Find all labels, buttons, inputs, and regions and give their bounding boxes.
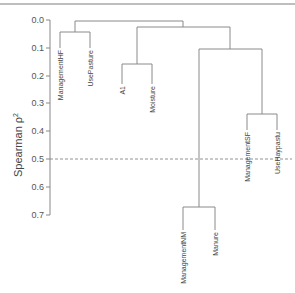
link-managementsf-usehaypastu: [247, 114, 277, 130]
leaf-label: A1: [119, 86, 126, 95]
link-a1-moisture: [122, 64, 152, 84]
y-tick-label: 0.5: [31, 154, 44, 164]
leaf-label: UsePasture: [87, 50, 94, 87]
y-axis-label: Spearman ρ2: [12, 113, 24, 177]
y-axis-label-base: Spearman ρ: [12, 117, 24, 177]
dendrogram-chart: 0.0 0.1 0.2 0.3 0.4 0.5 0.6 0.7 Spearman…: [0, 0, 295, 293]
leaf-label: Moisture: [149, 86, 156, 113]
leaf-label: ManagementNM: [180, 232, 188, 284]
leaf-labels: ManagementHF UsePasture A1 Moisture Mana…: [57, 50, 282, 284]
y-axis-label-superscript: 2: [12, 113, 19, 117]
link-managementhf-usepasture: [60, 32, 90, 48]
y-tick-label: 0.7: [31, 210, 44, 220]
y-tick-label: 0.4: [31, 126, 44, 136]
y-tick-label: 0.2: [31, 71, 44, 81]
y-tick-label: 0.0: [31, 15, 44, 25]
leaf-label: Manure: [212, 232, 219, 256]
link-right-subgroup: [199, 49, 262, 207]
leaf-label: ManagementHF: [57, 50, 65, 100]
leaf-label: ManagementSF: [244, 132, 252, 182]
y-tick-label: 0.1: [31, 43, 44, 53]
y-axis: 0.0 0.1 0.2 0.3 0.4 0.5 0.6 0.7 Spearman…: [12, 15, 50, 220]
y-tick-label: 0.6: [31, 182, 44, 192]
y-tick-label: 0.3: [31, 98, 44, 108]
link-middle-group: [137, 27, 230, 64]
leaf-label: UseHaypastu: [274, 132, 282, 174]
link-managementnm-manure: [183, 207, 215, 230]
